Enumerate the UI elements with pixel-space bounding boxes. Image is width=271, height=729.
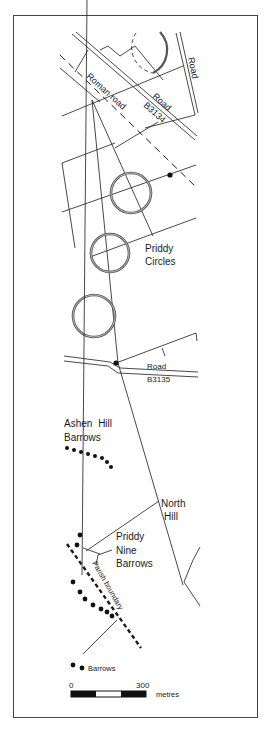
scale-start-label: 0 [69, 681, 74, 690]
label-b3135: B3135 [147, 375, 171, 384]
scale-unit-label: metres [156, 690, 179, 699]
label-road-b3135: Road [147, 362, 166, 371]
label-nine-barrows-1: Priddy [116, 531, 144, 542]
map-canvas: Road Roman road Road B3134 Priddy Circle… [0, 0, 271, 729]
label-north-hill-1: North [161, 498, 185, 509]
label-north-hill-2: Hill [164, 511, 178, 522]
label-ashen-hill-1: Ashen Hill [64, 418, 112, 429]
label-priddy-circles-2: Circles [145, 256, 176, 267]
label-nine-barrows-3: Barrows [116, 558, 153, 569]
enclosure-arc [153, 32, 167, 73]
scale-bar [71, 691, 146, 697]
dashed-enclosure [132, 33, 153, 73]
roman-road [60, 55, 197, 188]
scale-end-label: 300 [136, 681, 150, 690]
label-road-top-right: Road [186, 56, 200, 79]
label-ashen-hill-2: Barrows [64, 432, 101, 443]
label-priddy-circles-1: Priddy [145, 243, 173, 254]
label-barrows: Barrows [88, 664, 116, 673]
label-nine-barrows-2: Nine [116, 545, 137, 556]
